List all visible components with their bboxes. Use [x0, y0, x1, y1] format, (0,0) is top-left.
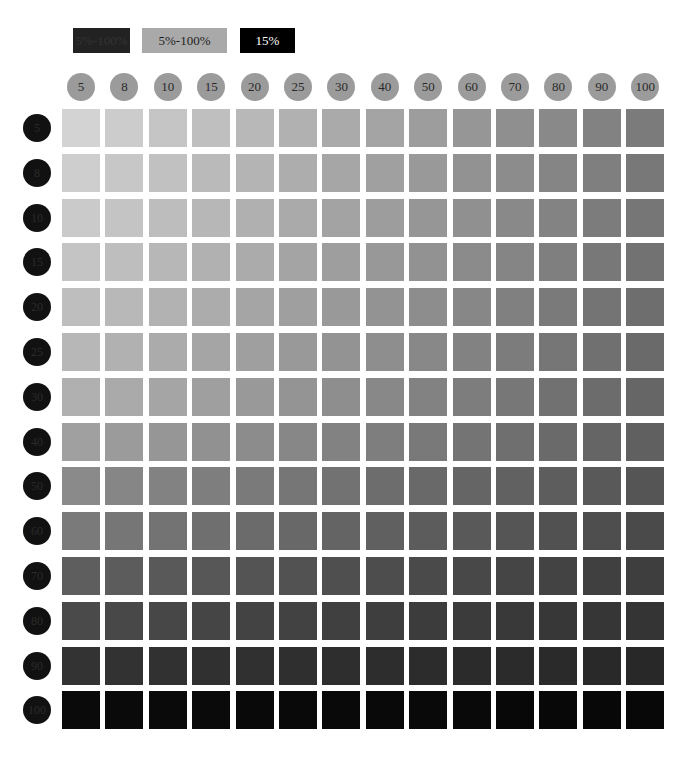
cell-60-8: [105, 512, 143, 550]
cell-20-15: [192, 288, 230, 326]
cell-70-90: [583, 557, 621, 595]
cell-20-5: [62, 288, 100, 326]
cell-40-20: [236, 423, 274, 461]
cell-15-15: [192, 243, 230, 281]
row-header-30: 30: [23, 383, 51, 411]
cell-60-10: [149, 512, 187, 550]
cell-8-20: [236, 154, 274, 192]
cell-8-30: [322, 154, 360, 192]
cell-5-90: [583, 109, 621, 147]
cell-60-40: [366, 512, 404, 550]
cell-40-40: [366, 423, 404, 461]
cell-20-30: [322, 288, 360, 326]
cell-90-20: [236, 647, 274, 685]
column-header-50: 50: [414, 73, 442, 101]
cell-50-50: [409, 467, 447, 505]
cell-50-70: [496, 467, 534, 505]
cell-15-50: [409, 243, 447, 281]
legend-swatch-3: 15%: [240, 28, 295, 53]
cell-25-20: [236, 333, 274, 371]
row-header-20: 20: [23, 293, 51, 321]
cell-10-20: [236, 199, 274, 237]
cell-20-40: [366, 288, 404, 326]
cell-80-15: [192, 602, 230, 640]
cell-8-70: [496, 154, 534, 192]
cell-30-20: [236, 378, 274, 416]
cell-25-25: [279, 333, 317, 371]
column-header-100: 100: [631, 73, 659, 101]
cell-15-30: [322, 243, 360, 281]
cell-70-100: [626, 557, 664, 595]
cell-5-5: [62, 109, 100, 147]
cell-15-40: [366, 243, 404, 281]
column-header-60: 60: [458, 73, 486, 101]
cell-25-60: [453, 333, 491, 371]
cell-80-25: [279, 602, 317, 640]
cell-40-70: [496, 423, 534, 461]
column-header-90: 90: [588, 73, 616, 101]
cell-80-70: [496, 602, 534, 640]
cell-8-80: [539, 154, 577, 192]
row-header-5: 5: [23, 114, 51, 142]
cell-20-50: [409, 288, 447, 326]
cell-15-5: [62, 243, 100, 281]
cell-15-60: [453, 243, 491, 281]
cell-30-8: [105, 378, 143, 416]
cell-40-90: [583, 423, 621, 461]
cell-50-80: [539, 467, 577, 505]
cell-10-100: [626, 199, 664, 237]
cell-30-10: [149, 378, 187, 416]
cell-90-50: [409, 647, 447, 685]
cell-70-80: [539, 557, 577, 595]
cell-60-15: [192, 512, 230, 550]
cell-90-5: [62, 647, 100, 685]
cell-90-60: [453, 647, 491, 685]
cell-8-10: [149, 154, 187, 192]
cell-5-30: [322, 109, 360, 147]
cell-20-10: [149, 288, 187, 326]
row-header-10: 10: [23, 204, 51, 232]
cell-5-40: [366, 109, 404, 147]
cell-40-80: [539, 423, 577, 461]
cell-30-80: [539, 378, 577, 416]
cell-100-25: [279, 691, 317, 729]
cell-90-100: [626, 647, 664, 685]
cell-70-40: [366, 557, 404, 595]
cell-25-40: [366, 333, 404, 371]
cell-15-80: [539, 243, 577, 281]
cell-25-50: [409, 333, 447, 371]
cell-20-80: [539, 288, 577, 326]
cell-5-80: [539, 109, 577, 147]
row-header-25: 25: [23, 338, 51, 366]
cell-30-100: [626, 378, 664, 416]
cell-10-40: [366, 199, 404, 237]
cell-100-90: [583, 691, 621, 729]
cell-40-25: [279, 423, 317, 461]
cell-80-20: [236, 602, 274, 640]
cell-80-90: [583, 602, 621, 640]
cell-90-15: [192, 647, 230, 685]
cell-100-10: [149, 691, 187, 729]
cell-5-60: [453, 109, 491, 147]
cell-70-50: [409, 557, 447, 595]
cell-8-90: [583, 154, 621, 192]
row-header-100: 100: [23, 696, 51, 724]
cell-8-8: [105, 154, 143, 192]
cell-5-8: [105, 109, 143, 147]
cell-8-25: [279, 154, 317, 192]
cell-25-30: [322, 333, 360, 371]
column-header-20: 20: [241, 73, 269, 101]
row-header-8: 8: [23, 159, 51, 187]
legend-swatch-1: 5%-100%: [73, 28, 130, 53]
cell-40-10: [149, 423, 187, 461]
cell-8-40: [366, 154, 404, 192]
row-header-50: 50: [23, 472, 51, 500]
cell-100-100: [626, 691, 664, 729]
legend-swatch-2: 5%-100%: [142, 28, 227, 53]
cell-15-8: [105, 243, 143, 281]
cell-90-80: [539, 647, 577, 685]
cell-40-15: [192, 423, 230, 461]
cell-25-5: [62, 333, 100, 371]
cell-40-100: [626, 423, 664, 461]
cell-100-50: [409, 691, 447, 729]
